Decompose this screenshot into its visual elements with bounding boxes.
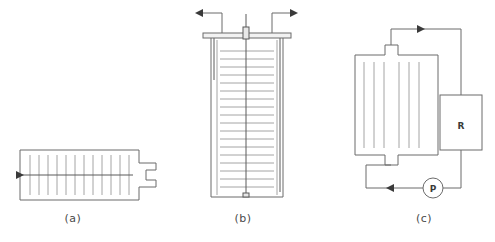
technical-diagram-svg: R P (a) (b) (c) bbox=[0, 0, 495, 242]
panel-b-left-nozzle-arrow bbox=[195, 9, 203, 17]
panel-c-bottom-pipe-left bbox=[366, 165, 423, 188]
caption-panel-c: (c) bbox=[416, 212, 432, 225]
caption-panel-b: (b) bbox=[234, 212, 251, 225]
panel-c-top-pipe bbox=[391, 29, 461, 95]
panel-b-shaft-bottom-cap bbox=[243, 193, 249, 197]
panel-c-reservoir-label: R bbox=[458, 121, 465, 131]
panel-c-internal-lines bbox=[364, 62, 419, 148]
panel-c-top-flow-arrow bbox=[417, 25, 425, 33]
panel-c-pump-label: P bbox=[430, 184, 437, 194]
figure-root: R P (a) (b) (c) bbox=[0, 0, 495, 242]
panel-b-right-nozzle-arrow bbox=[290, 9, 298, 17]
panel-c-bottom-flow-arrow bbox=[386, 184, 394, 192]
panel-c-bottom-pipe-right bbox=[443, 150, 461, 188]
panel-c-module-outline bbox=[355, 45, 438, 165]
panel-b bbox=[195, 9, 298, 197]
panel-c: R P bbox=[355, 25, 482, 198]
panel-b-shaft-hub bbox=[243, 27, 249, 39]
caption-panel-a: (a) bbox=[65, 212, 82, 225]
panel-b-internal-plates bbox=[220, 51, 274, 187]
panel-b-vessel-outline bbox=[211, 38, 283, 197]
panel-a bbox=[16, 150, 156, 200]
